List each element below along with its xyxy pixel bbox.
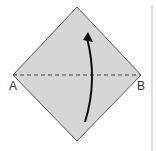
label-a: A — [9, 79, 17, 93]
label-b: B — [137, 79, 145, 93]
paper-square — [13, 7, 141, 141]
origami-diagram — [0, 0, 156, 151]
